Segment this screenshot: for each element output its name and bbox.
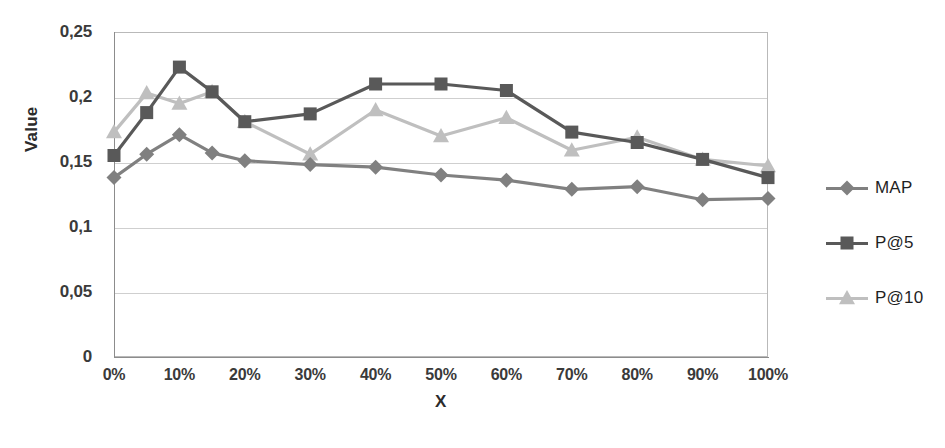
legend-label: MAP [875, 178, 912, 198]
x-axis-tick-label: 50% [425, 366, 456, 384]
x-axis-tick-label: 90% [687, 366, 718, 384]
y-axis-tick-label: 0 [0, 347, 92, 367]
y-axis-tick-label: 0,05 [0, 282, 92, 302]
x-axis-tick-label: 30% [294, 366, 325, 384]
legend-item-map[interactable]: MAP [826, 178, 923, 198]
y-axis-tick-label: 0,1 [0, 217, 92, 237]
chart-container: Value 0,250,20,150,10,050 0%10%20%30%40%… [0, 0, 945, 448]
x-axis-tick-label: 80% [621, 366, 652, 384]
y-axis-tick-label: 0,15 [0, 152, 92, 172]
x-axis-tick-label: 10% [164, 366, 195, 384]
gridline [115, 98, 767, 99]
data-point-marker [841, 237, 854, 250]
legend-item-p-10[interactable]: P@10 [826, 288, 923, 308]
data-point-marker [839, 290, 855, 304]
legend-marker-diamond-icon [826, 180, 868, 196]
data-point-marker [840, 181, 855, 196]
y-axis-line [114, 32, 115, 358]
gridline [115, 163, 767, 164]
legend-label: P@10 [875, 288, 923, 308]
y-axis-tick-label: 0,2 [0, 87, 92, 107]
y-axis-tick-label: 0,25 [0, 22, 92, 42]
x-axis-title: X [435, 392, 447, 412]
legend-swatch [826, 235, 868, 251]
x-axis-tick-label: 20% [229, 366, 260, 384]
legend-swatch [826, 290, 868, 306]
legend-swatch [826, 180, 868, 196]
x-axis-tick-label: 100% [748, 366, 788, 384]
x-axis-tick-label: 70% [556, 366, 587, 384]
x-axis-tick-label: 0% [103, 366, 126, 384]
y-axis-title: Value [22, 107, 42, 152]
gridline [115, 293, 767, 294]
legend-marker-triangle-icon [826, 290, 868, 306]
x-axis-tick-label: 40% [360, 366, 391, 384]
plot-area [114, 32, 768, 357]
legend-item-p-5[interactable]: P@5 [826, 233, 923, 253]
legend-label: P@5 [875, 233, 914, 253]
gridline [115, 228, 767, 229]
x-axis-tick-label: 60% [491, 366, 522, 384]
x-axis-line [114, 357, 769, 358]
legend-marker-square-icon [826, 235, 868, 251]
chart-legend: MAPP@5P@10 [826, 178, 923, 308]
